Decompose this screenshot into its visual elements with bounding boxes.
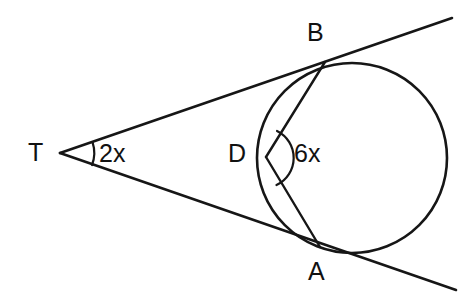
angle-label-6x: 6x [294,141,320,166]
main-circle [257,63,447,253]
angle-label-2x: 2x [99,141,125,166]
point-label-d: D [228,141,246,166]
point-label-t: T [28,140,43,165]
angle-arc-t [92,142,94,165]
tangent-line-upper [60,18,452,153]
point-label-a: A [308,259,325,284]
geometry-figure: T B A D 2x 6x [0,0,471,303]
point-label-b: B [307,20,324,45]
